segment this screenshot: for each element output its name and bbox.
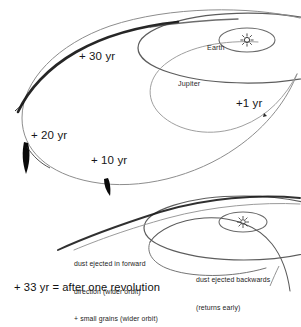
annotation-forward-line-3: + small grains (wider orbit): [74, 314, 158, 323]
time-marker-30yr: + 30 yr: [79, 50, 115, 64]
annotation-forward-line-1: dust ejected in forward: [74, 259, 158, 268]
marker-tick-20yr: [23, 142, 30, 174]
annotation-backward-ejection: dust ejected backwards (returns early): [196, 257, 270, 327]
earth-orbit: [219, 28, 275, 52]
marker-tick-10yr: [104, 178, 110, 196]
annotation-backward-line-2: (returns early): [196, 303, 270, 312]
backward-leader-line: [270, 266, 279, 286]
sun-icon: [241, 34, 253, 46]
time-marker-10yr: + 10 yr: [91, 154, 127, 168]
figure-caption: + 33 yr = after one revolution: [14, 281, 160, 294]
time-marker-1yr: +1 yr: [236, 97, 262, 111]
label-jupiter: Jupiter: [178, 80, 200, 88]
earth-orbit-lower: [219, 212, 267, 232]
label-earth: Earth: [207, 44, 225, 52]
dust-spiral-inner: [150, 42, 297, 133]
time-marker-20yr: + 20 yr: [31, 129, 67, 143]
sun-icon-lower: [237, 216, 248, 227]
annotation-backward-line-1: dust ejected backwards: [196, 275, 270, 284]
